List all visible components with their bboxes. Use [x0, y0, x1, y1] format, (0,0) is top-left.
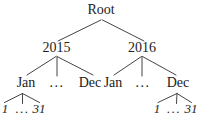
- node-2015-jan-day-1: 1: [2, 101, 9, 114]
- node-2015-months-ellipsis: ...: [50, 76, 65, 90]
- node-2016-dec: Dec: [167, 76, 190, 90]
- node-year-2015: 2015: [43, 41, 71, 55]
- tree-diagram: Root 2015 2016 Jan ... Dec Jan ... Dec 1…: [0, 0, 202, 117]
- node-2016-dec-day-31: 31: [185, 101, 198, 114]
- node-2015-jan-days-ellipsis: ...: [15, 101, 29, 114]
- node-2016-dec-days-ellipsis: ...: [167, 101, 181, 114]
- node-2015-jan: Jan: [17, 76, 36, 90]
- node-2015-jan-day-31: 31: [33, 101, 46, 114]
- node-root: Root: [87, 3, 114, 17]
- node-2016-jan: Jan: [104, 76, 123, 90]
- node-2015-dec: Dec: [79, 76, 102, 90]
- node-year-2016: 2016: [128, 41, 156, 55]
- node-2016-dec-day-1: 1: [154, 101, 161, 114]
- node-2016-months-ellipsis: ...: [136, 76, 151, 90]
